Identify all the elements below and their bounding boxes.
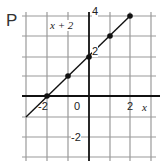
origin-label: 0 bbox=[74, 101, 80, 112]
x-tick-neg2: -2 bbox=[38, 101, 48, 112]
graph-figure: P x + 2 4 2 -2 0 2 x -2 bbox=[0, 0, 166, 163]
panel-label: P bbox=[6, 12, 17, 29]
x-tick-2: 2 bbox=[127, 101, 133, 112]
x-axis-label: x bbox=[142, 102, 147, 113]
y-tick-2: 2 bbox=[92, 46, 98, 57]
y-tick-4: 4 bbox=[92, 6, 98, 17]
coordinate-grid bbox=[0, 0, 166, 163]
line-label: x + 2 bbox=[49, 20, 74, 31]
y-tick-neg2: -2 bbox=[71, 132, 81, 143]
